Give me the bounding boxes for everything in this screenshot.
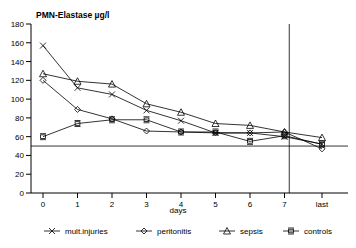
y-tick-label: 60	[15, 133, 24, 142]
legend: mult.injuriesperitonitissepsiscontrols	[44, 227, 332, 236]
x-tick-label: 2	[110, 200, 115, 209]
data-point-mult-injuries	[178, 118, 184, 124]
y-tick-label: 0	[20, 189, 25, 198]
series-polyline	[43, 80, 322, 149]
legend-item-sepsis[interactable]: sepsis	[219, 227, 263, 236]
legend-item-peritonitis[interactable]: peritonitis	[136, 227, 191, 236]
series-polyline	[43, 46, 322, 145]
x-axis-title: days	[170, 206, 187, 215]
y-tick-label: 160	[11, 39, 25, 48]
data-series-group	[40, 43, 326, 152]
x-tick-label: 1	[75, 200, 80, 209]
y-tick-label: 140	[11, 58, 25, 67]
legend-label: sepsis	[240, 227, 263, 236]
legend-label: mult.injuries	[65, 227, 108, 236]
data-point-mult-injuries	[144, 107, 150, 113]
series-polyline	[43, 74, 322, 138]
legend-item-controls[interactable]: controls	[283, 227, 332, 236]
y-axis-ticks: 020406080100120140160180	[11, 20, 31, 198]
pmn-elastase-line-chart: PMN-Elastase µg/l 0204060801001201401601…	[0, 0, 356, 248]
x-tick-label: last	[316, 200, 329, 209]
y-tick-label: 120	[11, 76, 25, 85]
y-tick-label: 40	[15, 151, 24, 160]
chart-container: PMN-Elastase µg/l 0204060801001201401601…	[0, 0, 356, 248]
data-point-sepsis	[40, 70, 47, 77]
y-tick-label: 80	[15, 114, 24, 123]
x-tick-label: 0	[41, 200, 46, 209]
x-tick-label: 7	[282, 200, 287, 209]
y-tick-label: 180	[11, 20, 25, 29]
legend-label: controls	[304, 227, 332, 236]
chart-title: PMN-Elastase µg/l	[36, 10, 109, 20]
legend-label: peritonitis	[157, 227, 191, 236]
legend-item-mult-injuries[interactable]: mult.injuries	[44, 227, 108, 236]
y-tick-label: 20	[15, 170, 24, 179]
x-tick-label: 3	[144, 200, 149, 209]
data-point-mult-injuries	[40, 43, 46, 49]
x-tick-label: 6	[248, 200, 253, 209]
x-tick-label: 5	[213, 200, 218, 209]
y-tick-label: 100	[11, 95, 25, 104]
